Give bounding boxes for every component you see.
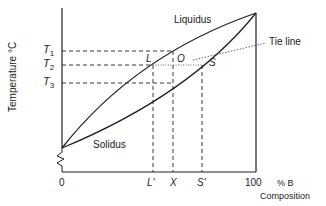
y-axis-label: Temperature °C: [7, 42, 18, 112]
liquidus-curve: [62, 13, 256, 148]
t2-label: T2: [43, 57, 55, 72]
liquidus-label: Liquidus: [174, 14, 211, 25]
t3-label: T3: [43, 75, 55, 90]
x-tick-s-prime: S': [197, 177, 207, 188]
x-tick-x: X: [169, 177, 177, 188]
solidus-label: Solidus: [93, 139, 126, 150]
t1-label: T1: [43, 43, 55, 58]
x-tick-100: 100: [245, 177, 262, 188]
point-o-label: O: [177, 53, 185, 64]
point-s-label: S: [209, 57, 216, 68]
x-axis-label: Composition: [260, 191, 310, 201]
x-tick-l-prime: L': [147, 177, 156, 188]
x-tick-0: 0: [59, 177, 65, 188]
tie-line-label: Tie line: [269, 36, 301, 47]
x-unit-label: % B: [277, 178, 294, 188]
point-l-label: L: [146, 53, 152, 64]
phase-diagram: Temperature °C T1 T2 T3 Liquidus Solidus…: [0, 0, 326, 206]
tie-line-leader: [193, 43, 266, 60]
solidus-curve: [62, 13, 256, 148]
axis-break-icon: [57, 148, 64, 172]
